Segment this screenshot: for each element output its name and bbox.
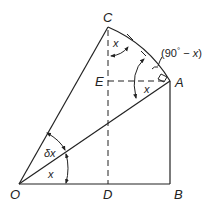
- arc-ticks: [127, 34, 146, 56]
- angle-label-x-near-A: x: [143, 83, 150, 95]
- dashed-lines: [108, 30, 168, 184]
- label-B: B: [174, 187, 183, 202]
- angle-label-delta-x: δx: [44, 147, 56, 159]
- solid-lines: [19, 27, 170, 184]
- label-D: D: [103, 187, 112, 202]
- label-A: A: [174, 75, 184, 90]
- label-E: E: [95, 74, 104, 89]
- angle-label-x-bottom: x: [47, 168, 54, 180]
- angle-label-x-near-C: x: [112, 37, 119, 49]
- complement-leader: [152, 67, 158, 69]
- line-OA: [19, 81, 170, 184]
- line-OC: [19, 27, 108, 184]
- angle-arcs: [47, 47, 144, 183]
- angle-arc-x-bottom: [66, 154, 68, 183]
- label-C: C: [103, 10, 113, 25]
- geometry-diagram: O D B A C E x δx x x (90° − x): [0, 0, 212, 210]
- angle-label-complement: (90° − x): [161, 46, 202, 59]
- label-O: O: [10, 187, 20, 202]
- angle-arc-x-near-A: [134, 59, 144, 98]
